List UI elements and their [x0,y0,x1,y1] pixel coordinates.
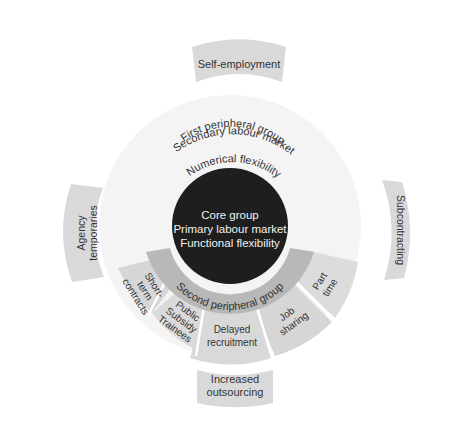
agency-line-2: temporaries [87,205,99,260]
self-employment-label: Self-employment [198,58,281,70]
agency-line-1: Agency [75,215,87,251]
delayed-recruitment-line-1: Delayed [214,324,251,335]
outsourcing-line-2: outsourcing [207,386,264,398]
flexible-firm-diagram: Core group Primary labour market Functio… [0,0,460,434]
delayed-recruitment-line-2: recruitment [207,337,257,348]
core-line-2: Primary labour market [173,223,287,235]
core-line-1: Core group [201,209,259,221]
outsourcing-line-1: Increased [211,373,259,385]
core-line-3: Functional flexibility [180,237,280,249]
subcontracting-label: Subcontracting [395,195,407,265]
